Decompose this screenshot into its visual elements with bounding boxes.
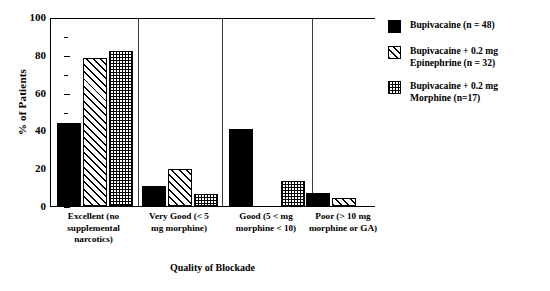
legend-swatch-check [388, 81, 401, 94]
y-tick-label: 60 [20, 88, 46, 99]
group-separator [138, 19, 139, 206]
plot-area [50, 18, 375, 207]
legend-item-0: Bupivacaine (n = 48) [388, 19, 548, 33]
bar-3-1 [332, 198, 356, 206]
legend-label: Bupivacaine (n = 48) [410, 19, 495, 31]
legend-item-1: Bupivacaine + 0.2 mg Epinephrine (n = 32… [388, 45, 548, 68]
y-tick-label: 80 [20, 50, 46, 61]
x-axis-category-label-line: Poor (> 10 mg [298, 211, 388, 223]
bar-1-1 [168, 169, 192, 206]
x-axis-labels: Excellent (nosupplementalnarcotics)Very … [50, 211, 375, 257]
chart-legend: Bupivacaine (n = 48)Bupivacaine + 0.2 mg… [388, 19, 548, 115]
y-tick-label: 100 [20, 12, 46, 23]
y-tick-label: 20 [20, 163, 46, 174]
x-axis-title: Quality of Blockade [50, 262, 375, 273]
y-axis-ticks: 020406080100 [14, 0, 46, 291]
legend-swatch-hatch [388, 46, 401, 59]
bar-0-1 [83, 58, 107, 206]
chart-figure: % of Patients 020406080100 Excellent (no… [0, 0, 550, 291]
legend-label: Bupivacaine + 0.2 mg Epinephrine (n = 32… [410, 45, 498, 68]
bar-2-0 [229, 129, 253, 206]
x-axis-category-label: Poor (> 10 mgmorphine or GA) [298, 211, 388, 234]
bar-0-0 [57, 123, 81, 206]
group-separator [222, 19, 223, 206]
group-separator [312, 19, 313, 206]
bar-3-0 [306, 193, 330, 206]
y-tick-label: 40 [20, 125, 46, 136]
legend-label: Bupivacaine + 0.2 mg Morphine (n=17) [410, 80, 498, 103]
bar-1-2 [194, 194, 218, 206]
y-tick-mark-major [64, 207, 70, 208]
x-axis-category-label-line: narcotics) [37, 234, 150, 246]
bar-2-2 [281, 181, 305, 206]
bar-0-2 [109, 51, 133, 206]
legend-item-2: Bupivacaine + 0.2 mg Morphine (n=17) [388, 80, 548, 103]
bar-1-0 [142, 186, 166, 206]
legend-swatch-solid [388, 20, 401, 33]
x-axis-category-label-line: morphine or GA) [298, 223, 388, 235]
